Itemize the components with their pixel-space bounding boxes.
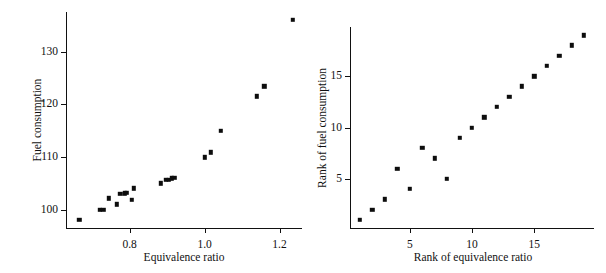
- data-point: [457, 136, 461, 140]
- data-point: [470, 125, 474, 129]
- data-point: [262, 84, 266, 88]
- right-y-tick: [345, 179, 350, 180]
- data-point: [582, 33, 586, 37]
- data-point: [520, 84, 524, 88]
- data-point: [254, 94, 258, 98]
- left-y-tick-label: 100: [20, 204, 58, 216]
- figure-two-panel-scatter: 1001101201300.81.01.2 Equivalence ratio …: [0, 0, 606, 273]
- right-y-axis-spine: [350, 27, 351, 229]
- data-point: [125, 190, 129, 194]
- data-point: [507, 95, 511, 99]
- left-x-axis-title: Equivalence ratio: [144, 252, 225, 264]
- data-point: [395, 166, 399, 170]
- left-x-tick-label: 1.2: [272, 239, 286, 251]
- data-point: [408, 187, 412, 191]
- data-point: [358, 218, 362, 222]
- left-x-tick-label: 1.0: [197, 239, 211, 251]
- left-y-tick: [61, 210, 66, 211]
- panel-rank-fuel-consumption-vs-rank-equivalence-ratio: 5101551015 Rank of equivalence ratio Ran…: [303, 0, 606, 273]
- left-y-axis-spine: [66, 12, 67, 229]
- right-x-tick: [534, 228, 535, 233]
- left-x-tick: [205, 228, 206, 233]
- left-y-axis-title: Fuel consumption: [32, 79, 44, 162]
- data-point: [370, 207, 374, 211]
- right-y-tick: [345, 128, 350, 129]
- data-point: [557, 54, 561, 58]
- data-point: [544, 64, 548, 68]
- right-x-tick-label: 10: [466, 239, 478, 251]
- data-point: [77, 218, 81, 222]
- data-point: [172, 176, 176, 180]
- data-point: [432, 156, 436, 160]
- right-x-tick: [472, 228, 473, 233]
- left-y-tick: [61, 104, 66, 105]
- right-y-axis-title: Rank of fuel consumption: [317, 68, 329, 188]
- data-point: [209, 150, 213, 154]
- data-point: [219, 128, 223, 132]
- data-point: [445, 177, 449, 181]
- data-point: [495, 105, 499, 109]
- data-point: [159, 181, 163, 185]
- data-point: [420, 146, 424, 150]
- data-point: [132, 186, 136, 190]
- data-point: [107, 196, 111, 200]
- left-y-tick: [61, 157, 66, 158]
- data-point: [203, 155, 207, 159]
- right-x-tick-label: 15: [528, 239, 540, 251]
- right-x-axis-title: Rank of equivalence ratio: [414, 252, 532, 264]
- left-x-tick: [130, 228, 131, 233]
- left-y-tick: [61, 52, 66, 53]
- data-point: [482, 115, 486, 119]
- left-x-axis-spine: [66, 228, 302, 229]
- right-x-tick: [410, 228, 411, 233]
- data-point: [569, 43, 573, 47]
- panel-fuel-consumption-vs-equivalence-ratio: 1001101201300.81.01.2 Equivalence ratio …: [0, 0, 303, 273]
- data-point: [383, 197, 387, 201]
- left-y-tick-label: 130: [20, 46, 58, 58]
- right-x-tick-label: 5: [407, 239, 413, 251]
- data-point: [291, 18, 295, 22]
- data-point: [130, 197, 134, 201]
- data-point: [101, 207, 105, 211]
- left-x-tick: [280, 228, 281, 233]
- data-point: [114, 202, 118, 206]
- right-y-tick: [345, 76, 350, 77]
- left-x-tick-label: 0.8: [122, 239, 136, 251]
- data-point: [532, 74, 536, 78]
